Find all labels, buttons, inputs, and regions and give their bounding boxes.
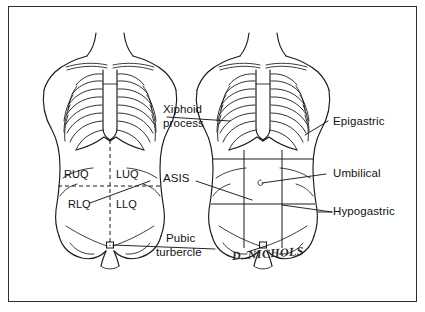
quadrant-label-luq: LUQ — [116, 168, 139, 180]
left-ribcage-right — [64, 74, 103, 150]
left-neck-outline — [87, 33, 133, 56]
right-clavicle — [219, 63, 307, 70]
right-torso-figure — [196, 33, 329, 269]
label-xiphoid-process-line2: process — [163, 117, 204, 131]
right-ribcage-left — [270, 74, 309, 150]
label-hypogastric: Hypogastric — [333, 205, 395, 219]
right-shoulder-outline — [197, 56, 329, 90]
leader-hypogastric — [282, 205, 332, 212]
label-asis: ASIS — [163, 172, 190, 186]
label-xiphoid-process-line1: Xiphoid — [163, 103, 202, 117]
left-shoulder-outline — [44, 56, 176, 90]
label-epigastric: Epigastric — [333, 115, 385, 129]
quadrant-label-llq: LLQ — [116, 198, 137, 210]
leader-umbilical — [262, 174, 326, 183]
left-torso-figure — [43, 33, 176, 269]
quadrant-label-rlq: RLQ — [68, 198, 91, 210]
left-ribcage-left — [117, 74, 156, 150]
label-umbilical: Umbilical — [333, 167, 381, 181]
anatomy-plate: .ol { fill:none; stroke:#1a1a1a; stroke-… — [0, 0, 425, 312]
nine-region-grid — [211, 150, 315, 248]
left-quadrant-dividers — [58, 140, 162, 246]
right-torso-outline — [196, 90, 329, 236]
right-sternum — [256, 70, 270, 140]
left-sternum — [103, 70, 117, 140]
label-pubic-tubercle-line1: Pubic — [166, 232, 195, 246]
right-costal-margin — [229, 137, 297, 150]
right-neck-outline — [240, 33, 286, 56]
right-ribcage-right — [217, 74, 256, 150]
anatomy-artwork: .ol { fill:none; stroke:#1a1a1a; stroke-… — [0, 0, 425, 312]
quadrant-label-ruq: RUQ — [64, 168, 88, 180]
label-pubic-tubercle-line2: turbercle — [156, 246, 202, 260]
left-clavicle — [66, 63, 154, 70]
